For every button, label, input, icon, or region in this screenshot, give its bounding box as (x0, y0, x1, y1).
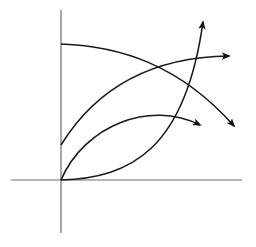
rise-and-fall-curve (61, 115, 200, 180)
increasing-concave-curve (61, 56, 229, 145)
curve-diagram (0, 0, 256, 247)
